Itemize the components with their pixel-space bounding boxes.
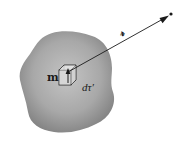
diagram-canvas	[0, 0, 186, 147]
dipole-moment-label: m	[47, 72, 59, 83]
volume-element-label: dτ′	[82, 82, 94, 93]
field-point-dot-icon	[169, 12, 172, 15]
